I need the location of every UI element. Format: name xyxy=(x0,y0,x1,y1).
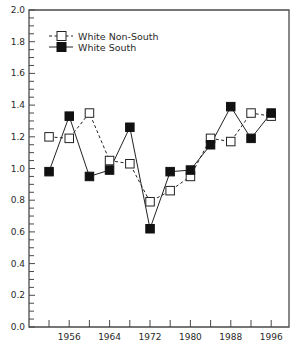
filled-square-marker xyxy=(247,134,256,143)
y-tick-label: 0.6 xyxy=(11,227,26,237)
filled-square-marker xyxy=(65,112,74,121)
y-tick-label: 2.0 xyxy=(11,5,26,15)
y-axis: 0.00.20.40.60.81.01.21.41.61.82.0 xyxy=(11,5,35,332)
filled-square-marker-icon xyxy=(57,43,66,52)
y-tick-label: 1.6 xyxy=(11,68,26,78)
x-tick-label: 1972 xyxy=(139,332,162,342)
filled-square-marker xyxy=(186,166,195,175)
legend-label: White Non-South xyxy=(78,31,159,42)
filled-square-marker xyxy=(267,109,276,118)
open-square-marker xyxy=(65,134,74,143)
series-line-white-non-south xyxy=(49,113,271,202)
open-square-marker-icon xyxy=(57,32,66,41)
y-tick-label: 1.8 xyxy=(11,37,26,47)
filled-square-marker xyxy=(166,167,175,176)
filled-square-marker xyxy=(146,225,155,234)
chart-container: 0.00.20.40.60.81.01.21.41.61.82.0 195619… xyxy=(0,0,299,349)
plot-frame xyxy=(29,10,289,327)
x-tick-label: 1980 xyxy=(179,332,202,342)
line-chart: 0.00.20.40.60.81.01.21.41.61.82.0 195619… xyxy=(0,0,299,349)
open-square-marker xyxy=(45,133,54,142)
y-tick-label: 1.0 xyxy=(11,164,26,174)
y-tick-label: 0.4 xyxy=(11,259,26,269)
series-line-white-south xyxy=(49,107,271,229)
x-tick-label: 1956 xyxy=(58,332,81,342)
open-square-marker xyxy=(227,137,236,146)
filled-square-marker xyxy=(126,123,135,132)
y-tick-label: 0.0 xyxy=(11,322,26,332)
x-tick-label: 1988 xyxy=(219,332,242,342)
y-tick-label: 1.2 xyxy=(11,132,25,142)
legend-item-white-south: White South xyxy=(49,42,136,53)
y-tick-label: 0.2 xyxy=(11,290,25,300)
filled-square-marker xyxy=(105,166,114,175)
x-tick-label: 1964 xyxy=(98,332,121,342)
open-square-marker xyxy=(126,160,135,169)
x-tick-label: 1996 xyxy=(260,332,283,342)
plot-border xyxy=(29,10,289,327)
filled-square-marker xyxy=(45,167,54,176)
series-group xyxy=(45,102,276,233)
open-square-marker xyxy=(85,109,94,118)
filled-square-marker xyxy=(227,102,236,111)
filled-square-marker xyxy=(85,172,94,181)
legend: White Non-South White South xyxy=(49,31,159,53)
filled-square-marker xyxy=(206,141,215,150)
open-square-marker xyxy=(247,109,256,118)
legend-label: White South xyxy=(78,42,136,53)
open-square-marker xyxy=(105,156,114,165)
x-axis: 195619641972198019881996 xyxy=(49,320,283,342)
open-square-marker xyxy=(166,186,175,195)
y-tick-label: 0.8 xyxy=(11,195,26,205)
series-markers-white-non-south xyxy=(45,109,276,206)
open-square-marker xyxy=(146,198,155,207)
y-tick-label: 1.4 xyxy=(11,100,26,110)
legend-item-white-non-south: White Non-South xyxy=(49,31,159,42)
